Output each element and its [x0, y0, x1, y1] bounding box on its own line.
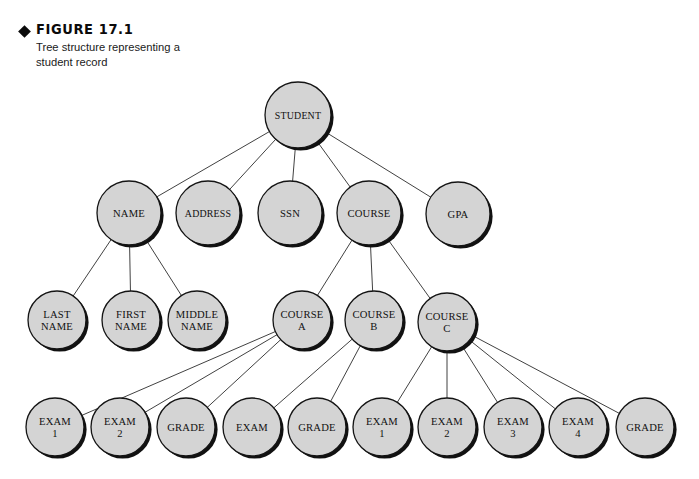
- tree-diagram: STUDENTNAMEADDRESSSSNCOURSEGPALASTNAMEFI…: [0, 0, 699, 479]
- node-label: STUDENT: [275, 110, 321, 121]
- node-label: EXAM: [39, 416, 71, 427]
- tree-edge: [317, 240, 352, 296]
- tree-node-middlename[interactable]: MIDDLENAME: [168, 291, 229, 352]
- node-label: 1: [379, 428, 385, 439]
- tree-node-coursec[interactable]: COURSEC: [418, 293, 479, 354]
- node-label: EXAM: [431, 416, 463, 427]
- tree-node-lastname[interactable]: LASTNAME: [28, 291, 89, 352]
- node-label: GRADE: [167, 422, 205, 433]
- node-label: COURSE: [353, 309, 396, 320]
- tree-edge: [370, 244, 372, 291]
- tree-edge: [130, 244, 131, 291]
- tree-node-exam_c1[interactable]: EXAM1: [353, 398, 414, 459]
- node-label: NAME: [181, 321, 213, 332]
- node-label: MIDDLE: [176, 309, 218, 320]
- tree-node-gpa[interactable]: GPA: [426, 182, 493, 249]
- node-label: C: [443, 323, 450, 334]
- tree-edge: [462, 346, 498, 403]
- node-label: NAME: [113, 208, 145, 219]
- tree-edge: [146, 240, 182, 296]
- node-label: GPA: [448, 209, 469, 220]
- tree-edge: [293, 147, 296, 181]
- tree-edge: [387, 239, 430, 299]
- node-label: 1: [52, 428, 58, 439]
- node-label: EXAM: [236, 422, 268, 433]
- tree-node-exam_c2[interactable]: EXAM2: [418, 398, 479, 459]
- tree-node-course[interactable]: COURSE: [337, 181, 404, 248]
- node-label: A: [298, 321, 306, 332]
- node-label: COURSE: [281, 309, 324, 320]
- tree-node-coursea[interactable]: COURSEA: [273, 291, 334, 352]
- tree-edge: [330, 345, 360, 402]
- node-label: ADDRESS: [185, 208, 231, 219]
- node-label: LAST: [43, 309, 71, 320]
- tree-node-name[interactable]: NAME: [97, 181, 164, 248]
- node-label: 2: [117, 428, 123, 439]
- tree-node-grade_b[interactable]: GRADE: [288, 398, 349, 459]
- node-label: 4: [575, 428, 581, 439]
- node-label: EXAM: [497, 416, 529, 427]
- node-label: EXAM: [562, 416, 594, 427]
- node-label: GRADE: [298, 422, 336, 433]
- tree-node-grade_c[interactable]: GRADE: [616, 398, 677, 459]
- tree-node-exam_c3[interactable]: EXAM3: [484, 398, 545, 459]
- tree-edge: [317, 141, 350, 187]
- tree-node-courseb[interactable]: COURSEB: [345, 291, 406, 352]
- tree-node-exam_a2[interactable]: EXAM2: [91, 398, 152, 459]
- node-label: GRADE: [626, 422, 664, 433]
- tree-node-address[interactable]: ADDRESS: [176, 181, 243, 248]
- node-label: NAME: [115, 321, 147, 332]
- node-label: EXAM: [366, 416, 398, 427]
- node-label: B: [370, 321, 377, 332]
- tree-node-exam_a1[interactable]: EXAM1: [26, 398, 87, 459]
- node-label: COURSE: [426, 311, 469, 322]
- tree-node-grade_a[interactable]: GRADE: [157, 398, 218, 459]
- tree-edge: [229, 139, 276, 190]
- tree-edge: [73, 239, 112, 296]
- tree-node-exam_c4[interactable]: EXAM4: [549, 398, 610, 459]
- edges-layer: [73, 131, 620, 415]
- node-label: 2: [444, 428, 450, 439]
- node-label: SSN: [280, 208, 300, 219]
- node-label: 3: [510, 428, 516, 439]
- tree-edge: [207, 339, 281, 407]
- tree-edge: [397, 346, 432, 403]
- tree-node-firstname[interactable]: FIRSTNAME: [102, 291, 163, 352]
- node-label: FIRST: [116, 309, 146, 320]
- node-label: COURSE: [348, 208, 391, 219]
- node-label: NAME: [41, 321, 73, 332]
- tree-node-ssn[interactable]: SSN: [258, 181, 325, 248]
- node-label: EXAM: [104, 416, 136, 427]
- nodes-layer: STUDENTNAMEADDRESSSSNCOURSEGPALASTNAMEFI…: [26, 82, 677, 459]
